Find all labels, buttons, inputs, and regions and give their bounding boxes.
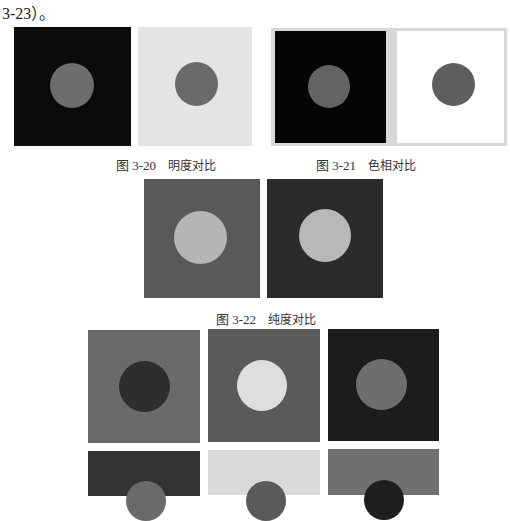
dark-circle [364,480,404,520]
light-gray-circle [174,211,227,264]
lead-text: 3-23）。 [2,0,55,24]
light-gray-circle [299,209,351,262]
grid-panel-c [328,329,439,441]
grid-panel-d [88,451,200,496]
dark-circle [119,361,170,412]
fig-3-22-panel-right [267,179,383,298]
light-circle [237,360,287,411]
gray-circle [432,63,475,106]
gray-circle [175,62,218,106]
gray-circle [246,481,286,521]
fig-3-22-caption: 图 3-22纯度对比 [216,309,316,328]
fig-3-21-caption: 图 3-21色相对比 [316,155,416,174]
fig-3-21-white-panel [397,31,504,143]
grid-panel-f [328,449,439,495]
gray-circle [356,359,407,410]
gray-circle [126,481,166,521]
grid-panel-b [208,329,320,442]
fig-3-20-caption: 图 3-20明度对比 [116,155,216,174]
gray-circle [308,65,350,108]
fig-3-21-black-panel [275,31,386,143]
fig-3-20-black-panel [14,27,131,146]
fig-3-22-panel-left [144,179,260,298]
gray-circle [50,63,94,108]
fig-3-20-light-panel [138,27,252,146]
grid-panel-e [208,450,320,495]
grid-panel-a [88,330,200,443]
